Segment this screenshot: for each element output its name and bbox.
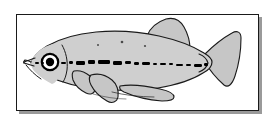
eye-pupil bbox=[46, 58, 54, 66]
stripe-segment bbox=[176, 64, 183, 66]
stripe-segment bbox=[88, 60, 95, 64]
stripe-segment bbox=[98, 60, 110, 64]
stripe-segment bbox=[35, 62, 39, 64]
stripe-segment bbox=[125, 61, 131, 64]
stripe-segment bbox=[142, 62, 150, 65]
stripe-segment bbox=[41, 62, 44, 64]
stripe-segment bbox=[160, 63, 166, 65]
stripe-segment bbox=[153, 63, 157, 65]
stripe-segment bbox=[194, 64, 202, 67]
fish-illustration bbox=[0, 0, 275, 127]
stripe-segment bbox=[134, 62, 139, 65]
figure-canvas bbox=[0, 0, 275, 127]
stripe-segment bbox=[113, 61, 122, 65]
stripe-segment bbox=[186, 64, 191, 66]
anal-fin bbox=[120, 85, 174, 101]
stripe-segment bbox=[204, 63, 208, 66]
stripe-segment bbox=[61, 62, 66, 64]
stripe-segment bbox=[169, 63, 173, 65]
stripe-segment bbox=[69, 61, 73, 64]
stripe-segment bbox=[76, 61, 85, 65]
spot-icon bbox=[97, 44, 99, 46]
spot-icon bbox=[121, 41, 124, 44]
spot-icon bbox=[144, 45, 146, 47]
